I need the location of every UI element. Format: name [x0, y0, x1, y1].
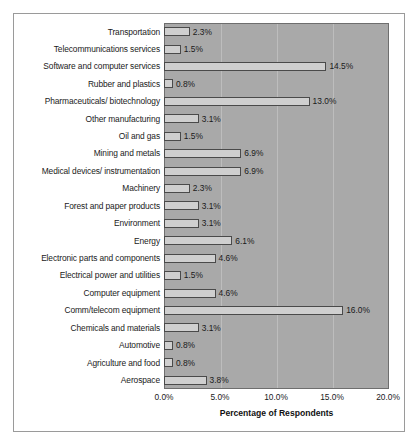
bar-value-label: 1.5% [184, 271, 203, 279]
bar [164, 79, 173, 88]
bar-row: Energy6.1% [164, 232, 389, 249]
category-label: Software and computer services [43, 62, 160, 70]
bar-row: Electrical power and utilities1.5% [164, 267, 389, 284]
x-tick-label: 15.0% [320, 393, 344, 401]
bar-value-label: 2.3% [193, 28, 212, 36]
bar-row: Computer equipment4.6% [164, 284, 389, 301]
bar-row: Telecommunications services1.5% [164, 40, 389, 57]
bar [164, 236, 232, 245]
bar-value-label: 4.6% [219, 289, 238, 297]
bar-row: Transportation2.3% [164, 23, 389, 40]
category-label: Pharmaceuticals/ biotechnology [45, 97, 160, 105]
bar-row: Rubber and plastics0.8% [164, 75, 389, 92]
bar-row: Mining and metals6.9% [164, 145, 389, 162]
category-label: Environment [114, 219, 160, 227]
bar [164, 289, 216, 298]
category-label: Automotive [119, 341, 160, 349]
bar-row: Medical devices/ instrumentation6.9% [164, 162, 389, 179]
bar-row: Software and computer services14.5% [164, 58, 389, 75]
bar-value-label: 0.8% [176, 80, 195, 88]
bar-value-label: 0.8% [176, 359, 195, 367]
bar-row: Automotive0.8% [164, 337, 389, 354]
bar [164, 376, 207, 385]
bar-row: Aerospace3.8% [164, 371, 389, 388]
category-label: Telecommunications services [54, 45, 160, 53]
bar-value-label: 1.5% [184, 132, 203, 140]
bar-row: Forest and paper products3.1% [164, 197, 389, 214]
x-axis-tick-labels: 0.0%5.0%10.0%15.0%20.0% [164, 393, 389, 405]
bar [164, 219, 199, 228]
bar-row: Comm/telecom equipment16.0% [164, 302, 389, 319]
bar-row: Other manufacturing3.1% [164, 110, 389, 127]
bar-value-label: 1.5% [184, 45, 203, 53]
category-label: Other manufacturing [86, 115, 160, 123]
bar-value-label: 3.1% [202, 219, 221, 227]
category-label: Electronic parts and components [41, 254, 160, 262]
bar-row: Environment3.1% [164, 215, 389, 232]
bar [164, 132, 181, 141]
category-label: Machinery [122, 184, 160, 192]
bar [164, 97, 310, 106]
bar-rows: Transportation2.3%Telecommunications ser… [164, 23, 389, 389]
category-label: Energy [134, 237, 160, 245]
bar-value-label: 3.1% [202, 115, 221, 123]
category-label: Electrical power and utilities [60, 271, 160, 279]
bar-row: Chemicals and materials3.1% [164, 319, 389, 336]
bar [164, 167, 241, 176]
bar [164, 45, 181, 54]
category-label: Aerospace [121, 376, 160, 384]
x-tick-label: 5.0% [210, 393, 229, 401]
bar-value-label: 0.8% [176, 341, 195, 349]
bar-row: Machinery2.3% [164, 180, 389, 197]
bar [164, 323, 199, 332]
bar [164, 27, 190, 36]
category-label: Rubber and plastics [88, 80, 160, 88]
bar-row: Pharmaceuticals/ biotechnology13.0% [164, 93, 389, 110]
bar-value-label: 6.1% [235, 237, 254, 245]
category-label: Computer equipment [84, 289, 160, 297]
category-label: Comm/telecom equipment [64, 306, 160, 314]
bar-row: Oil and gas1.5% [164, 128, 389, 145]
bar [164, 271, 181, 280]
bar-value-label: 16.0% [346, 306, 370, 314]
x-tick-label: 20.0% [376, 393, 400, 401]
bar-value-label: 3.8% [210, 376, 229, 384]
bar [164, 62, 326, 71]
bar [164, 341, 173, 350]
category-label: Agriculture and food [87, 359, 160, 367]
bar-value-label: 3.1% [202, 324, 221, 332]
category-label: Mining and metals [94, 149, 160, 157]
bar-row: Electronic parts and components4.6% [164, 249, 389, 266]
plot-wrapper: Transportation2.3%Telecommunications ser… [14, 14, 406, 433]
bar [164, 114, 199, 123]
bar-value-label: 13.0% [313, 97, 337, 105]
bar [164, 149, 241, 158]
bar-value-label: 6.9% [244, 149, 263, 157]
bar [164, 201, 199, 210]
bar [164, 254, 216, 263]
bar-value-label: 2.3% [193, 184, 212, 192]
category-label: Transportation [108, 28, 160, 36]
bar-row: Agriculture and food0.8% [164, 354, 389, 371]
bar-value-label: 14.5% [329, 62, 353, 70]
chart-frame: Transportation2.3%Telecommunications ser… [13, 13, 405, 432]
bar [164, 306, 343, 315]
x-axis-title: Percentage of Respondents [164, 409, 389, 418]
bar-value-label: 6.9% [244, 167, 263, 175]
bar [164, 184, 190, 193]
category-label: Medical devices/ instrumentation [42, 167, 160, 175]
category-label: Chemicals and materials [71, 324, 160, 332]
x-tick-label: 0.0% [154, 393, 173, 401]
bar-value-label: 4.6% [219, 254, 238, 262]
category-label: Oil and gas [119, 132, 160, 140]
bar [164, 358, 173, 367]
x-tick-label: 10.0% [264, 393, 288, 401]
bar-value-label: 3.1% [202, 202, 221, 210]
category-label: Forest and paper products [64, 202, 160, 210]
